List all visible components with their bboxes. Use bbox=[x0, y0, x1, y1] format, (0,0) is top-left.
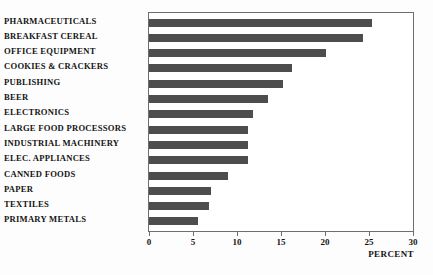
bar bbox=[149, 19, 372, 27]
bar bbox=[149, 110, 253, 118]
bar-row bbox=[149, 106, 413, 121]
bar bbox=[149, 126, 248, 134]
x-axis-title: PERCENT bbox=[368, 249, 414, 259]
x-tick-label: 25 bbox=[365, 237, 374, 247]
x-tick-mark bbox=[149, 232, 150, 236]
bar bbox=[149, 217, 198, 225]
bar-row bbox=[149, 15, 413, 30]
bar-row bbox=[149, 168, 413, 183]
category-label: CANNED FOODS bbox=[4, 167, 135, 182]
category-label: PHARMACEUTICALS bbox=[4, 14, 135, 29]
x-tick-label: 5 bbox=[191, 237, 196, 247]
category-label: INDUSTRIAL MACHINERY bbox=[4, 136, 135, 151]
bar bbox=[149, 156, 248, 164]
bar bbox=[149, 64, 292, 72]
bar-row bbox=[149, 45, 413, 60]
x-tick-label: 30 bbox=[409, 237, 418, 247]
x-tick-mark bbox=[237, 232, 238, 236]
bar-row bbox=[149, 183, 413, 198]
category-label: COOKIES & CRACKERS bbox=[4, 59, 135, 74]
bar-row bbox=[149, 122, 413, 137]
category-label: TEXTILES bbox=[4, 197, 135, 212]
bar-row bbox=[149, 213, 413, 228]
bar bbox=[149, 172, 228, 180]
x-axis: PERCENT 051015202530 bbox=[148, 232, 414, 262]
bar bbox=[149, 49, 326, 57]
category-label: OFFICE EQUIPMENT bbox=[4, 44, 135, 59]
x-tick-mark bbox=[325, 232, 326, 236]
bar-row bbox=[149, 137, 413, 152]
bar bbox=[149, 187, 211, 195]
x-tick-label: 20 bbox=[321, 237, 330, 247]
bar bbox=[149, 80, 283, 88]
x-tick-label: 15 bbox=[277, 237, 286, 247]
bar bbox=[149, 95, 268, 103]
bar bbox=[149, 34, 363, 42]
x-tick-label: 10 bbox=[233, 237, 242, 247]
bars-layer bbox=[149, 13, 413, 231]
category-label: PAPER bbox=[4, 182, 135, 197]
plot-area bbox=[148, 12, 414, 232]
bar-row bbox=[149, 91, 413, 106]
x-tick-mark bbox=[281, 232, 282, 236]
category-label: LARGE FOOD PROCESSORS bbox=[4, 121, 135, 136]
bar-row bbox=[149, 60, 413, 75]
category-label: PRIMARY METALS bbox=[4, 212, 135, 227]
category-label: PUBLISHING bbox=[4, 75, 135, 90]
category-label: BEER bbox=[4, 90, 135, 105]
bar-chart: PHARMACEUTICALSBREAKFAST CEREALOFFICE EQ… bbox=[0, 0, 433, 275]
bar bbox=[149, 141, 248, 149]
category-label: BREAKFAST CEREAL bbox=[4, 29, 135, 44]
category-axis-labels: PHARMACEUTICALSBREAKFAST CEREALOFFICE EQ… bbox=[0, 12, 141, 232]
bar-row bbox=[149, 198, 413, 213]
x-tick-label: 0 bbox=[147, 237, 152, 247]
x-tick-mark bbox=[193, 232, 194, 236]
bar-row bbox=[149, 76, 413, 91]
bar bbox=[149, 202, 209, 210]
x-tick-mark bbox=[413, 232, 414, 236]
category-label: ELECTRONICS bbox=[4, 105, 135, 120]
category-label: ELEC. APPLIANCES bbox=[4, 151, 135, 166]
bar-row bbox=[149, 152, 413, 167]
x-tick-mark bbox=[369, 232, 370, 236]
bar-row bbox=[149, 30, 413, 45]
